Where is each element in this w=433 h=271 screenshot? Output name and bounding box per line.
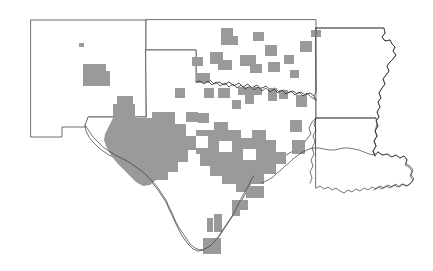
shaded-county [265,45,277,56]
shaded-county [192,57,203,66]
shaded-county [175,88,185,98]
unshaded-county [243,149,256,160]
unshaded-county [196,136,208,148]
shaded-county [186,112,198,122]
shaded-county [300,41,312,52]
shaded-county [268,62,280,72]
shaded-county [232,100,241,109]
shaded-county [284,55,294,64]
shaded-county [207,218,213,232]
shaded-county [296,95,307,107]
shaded-county [214,214,222,232]
shaded-county [203,238,221,254]
shaded-county [253,32,264,41]
map-figure: South Central United States New Mexico O… [0,0,433,271]
shaded-county [290,120,302,132]
unshaded-county [219,141,232,152]
shaded-county [204,88,214,98]
shaded-county [79,43,84,47]
shaded-county [83,64,110,86]
shaded-county [246,186,264,198]
county-choropleth-map [0,0,433,271]
shaded-county [218,88,230,98]
shaded-county [113,104,135,118]
shaded-county [198,113,209,123]
shaded-county [290,70,299,78]
